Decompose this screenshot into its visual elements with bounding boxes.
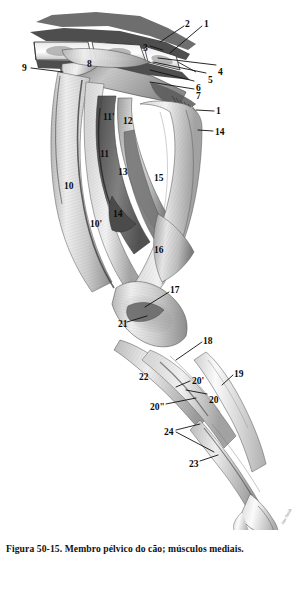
label-1-top: 1 — [204, 20, 209, 30]
label-4: 4 — [218, 68, 223, 78]
label-7: 7 — [196, 92, 201, 102]
label-17: 17 — [170, 286, 180, 296]
anatomical-figure: 12345678911411'121113151010'141617211819… — [0, 0, 297, 530]
paw-pes — [233, 494, 278, 530]
label-5: 5 — [208, 76, 213, 86]
label-20p: 20' — [192, 377, 204, 387]
figure-caption: Figura 50-15. Membro pélvico do cão; mús… — [6, 543, 286, 554]
label-1-mid: 1 — [216, 107, 221, 117]
label-13: 13 — [118, 168, 128, 178]
label-3: 3 — [143, 44, 148, 54]
label-8: 8 — [87, 60, 92, 70]
label-14: 14 — [113, 210, 123, 220]
label-20: 20 — [209, 396, 219, 406]
limb-illustration — [0, 0, 297, 530]
label-10: 10 — [64, 182, 74, 192]
label-2: 2 — [185, 20, 190, 30]
label-19: 19 — [234, 370, 244, 380]
label-11: 11 — [100, 150, 109, 160]
label-14-top: 14 — [215, 128, 225, 138]
label-21: 21 — [118, 320, 128, 330]
label-24: 24 — [164, 428, 174, 438]
label-22: 22 — [139, 373, 149, 383]
label-20pp: 20" — [150, 403, 165, 413]
label-11p: 11' — [103, 113, 115, 123]
label-10p: 10' — [90, 220, 102, 230]
label-18: 18 — [203, 337, 213, 347]
label-23: 23 — [189, 460, 199, 470]
label-15: 15 — [154, 174, 164, 184]
leader-label-1-mid — [196, 110, 214, 111]
label-16: 16 — [154, 246, 164, 256]
label-9: 9 — [22, 64, 27, 74]
label-12: 12 — [123, 117, 133, 127]
